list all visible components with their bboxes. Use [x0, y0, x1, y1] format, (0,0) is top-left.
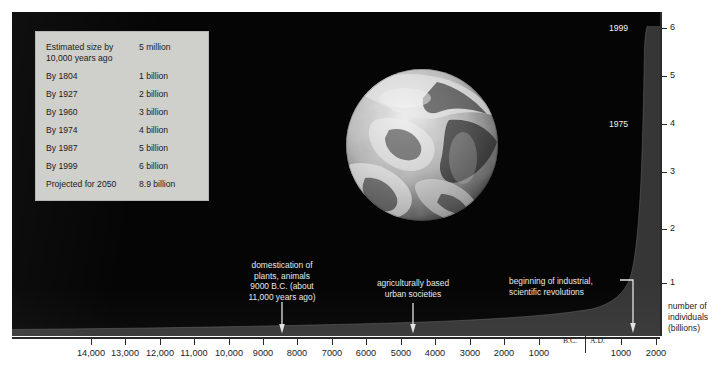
y-tick-label-1: 1 [670, 278, 675, 287]
table-row: By 1987 5 billion [46, 143, 199, 154]
table-row-label: By 1974 [46, 125, 84, 136]
y-tick-3 [660, 172, 667, 173]
table-row-value: 2 billion [139, 89, 199, 100]
y-axis-title-line1: number of [668, 301, 708, 312]
annotation-urban-societies: agriculturally based urban societies [348, 278, 478, 299]
x-tick-label-2000-ad: 2000 [646, 348, 666, 358]
x-tick-9000 [263, 338, 264, 345]
x-tick-label-14000: 14,000 [77, 348, 105, 358]
x-tick-1000-ad [621, 338, 622, 345]
x-tick-label-7000: 7000 [322, 348, 342, 358]
y-axis-title-line2: individuals [668, 312, 708, 323]
y-tick-label-6: 6 [670, 23, 675, 32]
table-row: By 1804 1 billion [46, 71, 199, 82]
earth-graphic [345, 68, 499, 222]
table-row: By 1927 2 billion [46, 89, 199, 100]
y-tick-5 [660, 76, 667, 77]
x-tick-12000 [160, 338, 161, 345]
curve-label-1975: 1975 [609, 119, 628, 129]
plot-panel: Estimated size by 10,000 years ago 5 mil… [12, 12, 660, 336]
x-tick-3000 [470, 338, 471, 345]
x-tick-10000 [229, 338, 230, 345]
table-row-value: 8.9 billion [139, 179, 199, 190]
table-row: By 1960 3 billion [46, 107, 199, 118]
y-tick-1 [660, 283, 667, 284]
table-row-label-line2: 10,000 years ago [46, 53, 113, 64]
x-tick-label-9000: 9000 [253, 348, 273, 358]
annotation-line: plants, animals [218, 271, 346, 282]
y-axis-line [660, 12, 662, 336]
y-axis-title: number of individuals (billions) [668, 301, 708, 334]
x-tick-5000 [401, 338, 402, 345]
x-tick-label-12000: 12,000 [146, 348, 174, 358]
table-row: Projected for 2050 8.9 billion [46, 179, 199, 190]
table-row-value: 6 billion [139, 161, 199, 172]
y-tick-2 [660, 229, 667, 230]
population-growth-figure: Estimated size by 10,000 years ago 5 mil… [0, 0, 724, 372]
table-row-label: Estimated size by 10,000 years ago [46, 42, 119, 64]
table-row-label-line1: Estimated size by [46, 42, 113, 52]
table-row-value: 3 billion [139, 107, 199, 118]
era-label-ad: A.D. [590, 336, 605, 345]
x-tick-label-2000: 2000 [494, 348, 514, 358]
arrow-leader-industrial-icon [620, 276, 638, 334]
x-tick-label-6000: 6000 [356, 348, 376, 358]
annotation-line: urban societies [348, 289, 478, 300]
x-tick-label-13000: 13,000 [111, 348, 139, 358]
table-row-value: 1 billion [139, 71, 199, 82]
era-label-bc: B.C. [563, 336, 577, 345]
x-tick-2000-ad [656, 338, 657, 345]
table-row-value: 5 million [139, 42, 199, 53]
table-row-label: By 1927 [46, 89, 84, 100]
annotation-line: domestication of [218, 260, 346, 271]
table-row-label: Projected for 2050 [46, 179, 122, 190]
y-axis-title-line3: (billions) [668, 323, 708, 334]
x-tick-1000-bc [539, 338, 540, 345]
table-row: Estimated size by 10,000 years ago 5 mil… [46, 42, 199, 64]
y-tick-label-5: 5 [670, 71, 675, 80]
x-tick-label-1000-bc: 1000 [529, 348, 549, 358]
y-tick-6 [660, 28, 667, 29]
y-tick-label-3: 3 [670, 167, 675, 176]
x-tick-label-8000: 8000 [287, 348, 307, 358]
x-tick-2000 [504, 338, 505, 345]
x-tick-label-1000-ad: 1000 [611, 348, 631, 358]
table-row: By 1999 6 billion [46, 161, 199, 172]
x-tick-label-5000: 5000 [391, 348, 411, 358]
table-row-label: By 1987 [46, 143, 84, 154]
annotation-line: 11,000 years ago) [218, 292, 346, 303]
annotation-line: 9000 B.C. (about [218, 281, 346, 292]
estimated-size-table: Estimated size by 10,000 years ago 5 mil… [36, 32, 208, 200]
curve-label-1999: 1999 [609, 23, 628, 33]
annotation-line: agriculturally based [348, 278, 478, 289]
table-row-label: By 1999 [46, 161, 84, 172]
x-tick-label-4000: 4000 [425, 348, 445, 358]
era-divider [585, 336, 586, 353]
x-tick-14000 [91, 338, 92, 345]
x-tick-11000 [194, 338, 195, 345]
x-tick-7000 [332, 338, 333, 345]
x-tick-4000 [435, 338, 436, 345]
y-tick-label-2: 2 [670, 224, 675, 233]
y-tick-label-4: 4 [670, 119, 675, 128]
x-tick-label-10000: 10,000 [215, 348, 243, 358]
table-row-label: By 1960 [46, 107, 84, 118]
x-tick-label-11000: 11,000 [180, 348, 207, 358]
annotation-domestication: domestication of plants, animals 9000 B.… [218, 260, 346, 302]
table-row-value: 4 billion [139, 125, 199, 136]
x-tick-8000 [297, 338, 298, 345]
arrow-down-icon-urban [410, 303, 416, 334]
x-tick-6000 [366, 338, 367, 345]
table-row: By 1974 4 billion [46, 125, 199, 136]
x-tick-label-3000: 3000 [460, 348, 480, 358]
table-row-value: 5 billion [139, 143, 199, 154]
y-tick-4 [660, 124, 667, 125]
arrow-down-icon-domestication [279, 302, 285, 334]
earth-globe-image [345, 68, 499, 222]
table-row-label: By 1804 [46, 71, 84, 82]
x-tick-13000 [125, 338, 126, 345]
